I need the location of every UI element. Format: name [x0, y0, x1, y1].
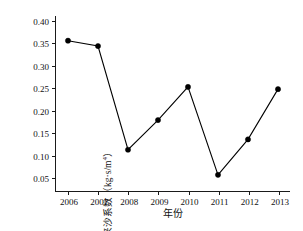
y-axis-title: 来沙系数（kg·s/m4） [102, 104, 116, 231]
y-axis-tick-label: 0.40 [33, 17, 49, 26]
y-axis-tick: 0.25 [52, 88, 56, 89]
y-axis-tick: 0.10 [52, 156, 56, 157]
x-axis-tick-label: 2012 [241, 198, 259, 207]
series-markers [65, 38, 280, 177]
y-axis-tick: 0.15 [52, 133, 56, 134]
series-point [215, 172, 220, 177]
series-line [68, 41, 278, 175]
x-axis-tick: 2012 [249, 191, 250, 195]
plot-area: 0.050.100.150.200.250.300.350.4020062007… [55, 16, 290, 192]
x-axis-tick-label: 2009 [150, 198, 168, 207]
x-axis-tick-label: 2013 [271, 198, 289, 207]
y-axis-tick-label: 0.10 [33, 152, 49, 161]
series-point [65, 38, 70, 43]
x-axis-tick: 2010 [189, 191, 190, 195]
x-axis-title: 年份 [55, 209, 290, 219]
y-axis-tick-label: 0.20 [33, 107, 49, 116]
x-axis-tick: 2011 [219, 191, 220, 195]
x-axis-tick: 2008 [128, 191, 129, 195]
series-point [275, 87, 280, 92]
y-axis-tick: 0.30 [52, 66, 56, 67]
chart-figure: 0.050.100.150.200.250.300.350.4020062007… [0, 0, 303, 231]
y-axis-title-text: 来沙系数（kg·s/m [103, 161, 113, 231]
series-svg [56, 16, 290, 191]
y-axis-tick: 0.35 [52, 43, 56, 44]
y-axis-tick: 0.40 [52, 21, 56, 22]
x-axis-tick: 2009 [158, 191, 159, 195]
y-axis-tick: 0.05 [52, 178, 56, 179]
y-axis-tick-label: 0.35 [33, 40, 49, 49]
y-axis-tick: 0.20 [52, 111, 56, 112]
y-axis-tick-label: 0.15 [33, 130, 49, 139]
series-point [245, 137, 250, 142]
series-point [185, 84, 190, 89]
x-axis-tick-label: 2006 [60, 198, 78, 207]
series-point [125, 147, 130, 152]
y-axis-title-superscript: 4 [101, 157, 109, 161]
x-axis-tick: 2013 [279, 191, 280, 195]
y-axis-title-suffix: ） [103, 147, 113, 157]
series-point [95, 43, 100, 48]
y-axis-tick-label: 0.25 [33, 85, 49, 94]
x-axis-tick-label: 2010 [181, 198, 199, 207]
x-axis-tick: 2007 [98, 191, 99, 195]
y-axis-tick-label: 0.05 [33, 175, 49, 184]
x-axis-tick: 2006 [68, 191, 69, 195]
x-axis-tick-label: 2011 [211, 198, 229, 207]
x-axis-tick-label: 2008 [120, 198, 138, 207]
series-point [155, 118, 160, 123]
y-axis-tick-label: 0.30 [33, 62, 49, 71]
